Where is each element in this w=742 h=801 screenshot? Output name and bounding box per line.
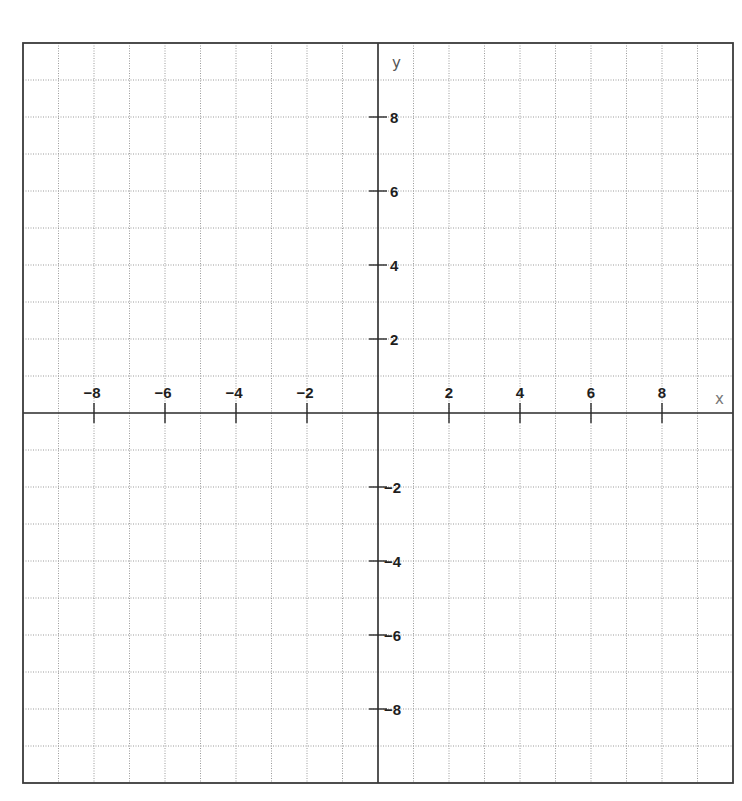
y-axis-label: y: [392, 54, 401, 72]
x-tick-label: −4: [225, 384, 243, 401]
x-tick-label: 8: [658, 384, 666, 401]
coordinate-plane: −8−6−4−22468 8642−2−4−6−8 x y: [0, 0, 742, 801]
y-tick-label: −8: [384, 701, 401, 718]
x-tick-label: −6: [154, 384, 171, 401]
x-tick-label: 6: [587, 384, 595, 401]
y-tick-label: −6: [384, 627, 401, 644]
y-tick-label: 4: [390, 257, 399, 274]
x-tick-label: 2: [445, 384, 453, 401]
y-tick-label: 2: [390, 331, 398, 348]
y-tick-label: −2: [384, 479, 401, 496]
x-tick-label: −2: [296, 384, 313, 401]
x-axis-label: x: [715, 390, 724, 408]
x-tick-label: −8: [83, 384, 100, 401]
y-tick-label: 8: [390, 109, 398, 126]
y-tick-label: 6: [390, 183, 398, 200]
x-tick-label: 4: [516, 384, 525, 401]
y-tick-label: −4: [384, 553, 402, 570]
x-axis-ticks: −8−6−4−22468: [83, 384, 666, 423]
